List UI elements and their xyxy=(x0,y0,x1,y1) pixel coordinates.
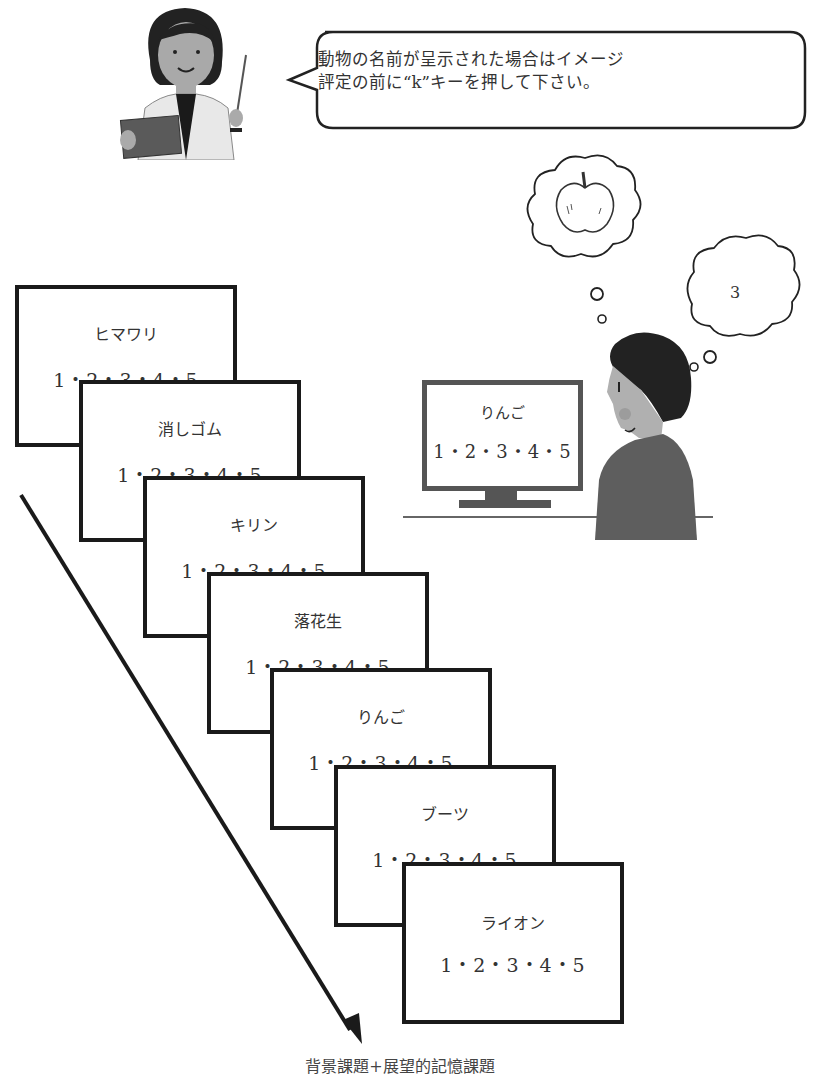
thought-rating-value: 3 xyxy=(730,283,740,302)
experimenter-illustration xyxy=(110,0,260,160)
trial-card: ライオン 1・2・3・4・5 xyxy=(402,862,624,1024)
trial-word: 消しゴム xyxy=(83,416,297,440)
trial-word: りんご xyxy=(274,704,488,728)
thought-dots-apple xyxy=(585,280,615,325)
instruction-text: 動物の名前が呈示された場合はイメージ 評定の前に“k”キーを押して下さい。 xyxy=(318,48,718,94)
trial-word: ヒマワリ xyxy=(19,321,233,345)
monitor-stand xyxy=(455,486,555,512)
trial-word: ブーツ xyxy=(338,801,552,825)
thought-cloud-apple xyxy=(525,150,650,265)
monitor-word: りんご xyxy=(427,401,578,422)
trial-rating-scale: 1・2・3・4・5 xyxy=(406,950,620,977)
instruction-line-1: 動物の名前が呈示された場合はイメージ xyxy=(318,48,718,71)
trial-word: 落花生 xyxy=(211,608,425,632)
instruction-line-2: 評定の前に“k”キーを押して下さい。 xyxy=(318,71,718,94)
trial-word: ライオン xyxy=(406,910,620,934)
monitor-rating-scale: 1・2・3・4・5 xyxy=(427,437,578,463)
diagram-caption: 背景課題+展望的記憶課題 xyxy=(270,1053,530,1077)
thought-cloud-rating xyxy=(684,230,806,342)
trial-word: キリン xyxy=(147,512,361,536)
monitor-screen: りんご 1・2・3・4・5 xyxy=(422,380,583,491)
participant-illustration xyxy=(585,330,705,540)
